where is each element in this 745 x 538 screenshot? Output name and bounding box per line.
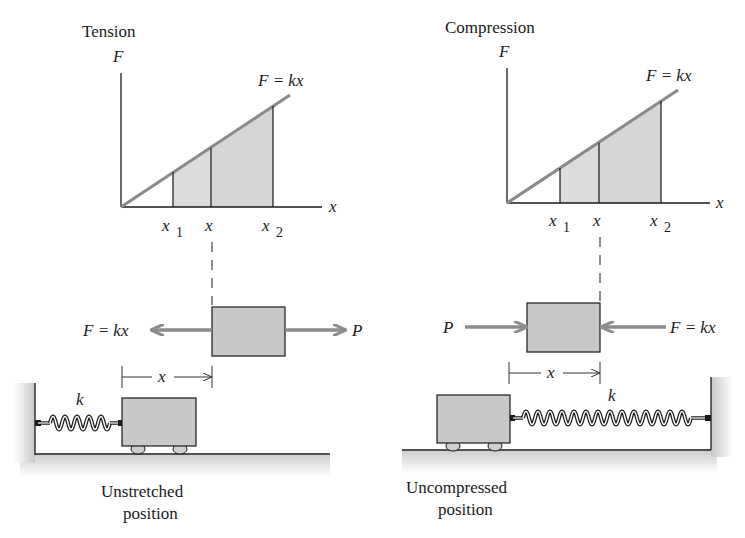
force-f-label: F = kx [82,321,129,340]
compression-chart: Compression F x F = kx x 1 x x 2 [445,18,724,235]
caption-line1: Uncompressed [406,478,508,497]
displacement-dimension: x [509,362,600,384]
shaded-area-x-x2 [211,106,273,207]
y-axis-label: F [498,42,510,61]
caption-line1: Unstretched [101,482,184,501]
tick-x2: x [261,216,270,235]
spring-compressed-icon: k [510,386,711,425]
spring-work-diagram: Tension F x F = kx x 1 x x 2 F = kx P x [0,0,745,538]
shaded-area-x-x2 [599,101,661,203]
tick-x2-sub: 2 [664,220,671,235]
line-label: F = kx [645,66,692,85]
tick-x2: x [649,211,658,230]
compression-title: Compression [445,18,535,37]
dimension-label: x [546,363,555,382]
force-p-label: P [442,318,453,337]
y-axis-label: F [112,47,124,66]
tick-x: x [204,216,213,235]
tension-free-body: F = kx P [82,307,362,356]
tick-x1: x [548,211,557,230]
tick-x: x [592,211,601,230]
caption-line2: position [123,504,178,523]
x-axis-label: x [328,197,337,216]
cart [437,395,510,451]
force-f-label: F = kx [669,318,716,337]
block [527,303,600,352]
spring-k-label: k [76,390,84,409]
displacement-dimension: x [122,366,212,388]
line-label: F = kx [257,71,304,90]
tension-chart: Tension F x F = kx x 1 x x 2 [82,22,337,240]
shaded-area-x1-x [560,143,599,203]
caption-line2: position [438,500,493,519]
x-axis-label: x [715,193,724,212]
block [212,307,285,356]
tick-x1-sub: 1 [176,225,183,240]
cart [122,398,196,454]
tick-x1: x [161,216,170,235]
spring-stretched-icon: k [35,390,123,430]
shaded-area-x1-x [173,148,211,207]
tension-title: Tension [82,22,136,41]
compression-free-body: P F = kx [442,303,716,352]
tension-panel: Tension F x F = kx x 1 x x 2 F = kx P x [14,22,362,523]
tick-x2-sub: 2 [276,225,283,240]
compression-panel: Compression F x F = kx x 1 x x 2 P F = k… [402,18,733,519]
tick-x1-sub: 1 [563,220,570,235]
force-p-label: P [351,321,362,340]
spring-k-label: k [608,386,616,405]
dimension-label: x [157,367,166,386]
